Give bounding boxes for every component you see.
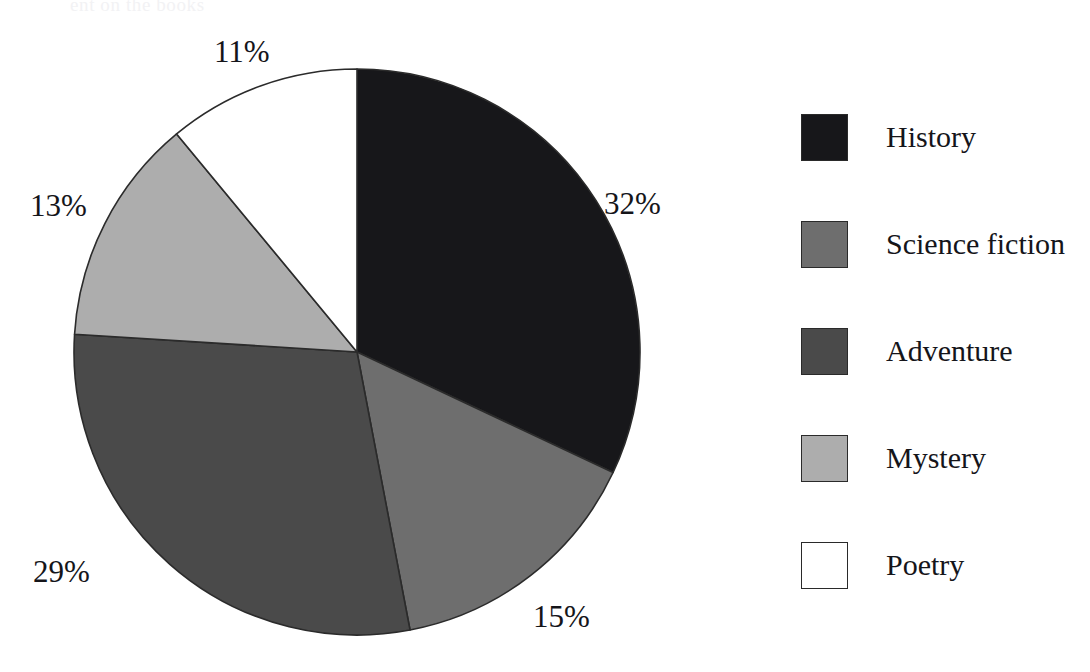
pie-slice-group xyxy=(74,69,640,635)
legend-swatch-mystery xyxy=(801,435,848,482)
pie-value-label-poetry: 11% xyxy=(214,36,270,67)
legend-item-adventure: Adventure xyxy=(801,327,1081,375)
pie-chart: 32% 15% 29% 13% 11% History Science fict… xyxy=(0,0,1090,672)
legend-swatch-adventure xyxy=(801,328,848,375)
legend-label-poetry: Poetry xyxy=(886,550,964,580)
legend-swatch-science-fiction xyxy=(801,221,848,268)
legend-label-adventure: Adventure xyxy=(886,336,1013,366)
legend-label-history: History xyxy=(886,122,976,152)
legend-label-mystery: Mystery xyxy=(886,443,986,473)
pie-value-label-history: 32% xyxy=(604,188,661,219)
pie-value-label-adventure: 29% xyxy=(33,556,90,587)
legend-label-science-fiction: Science fiction xyxy=(886,229,1065,259)
legend-item-mystery: Mystery xyxy=(801,434,1081,482)
pie-value-label-science-fiction: 15% xyxy=(533,601,590,632)
legend-item-science-fiction: Science fiction xyxy=(801,220,1081,268)
legend-item-poetry: Poetry xyxy=(801,541,1081,589)
legend-swatch-history xyxy=(801,114,848,161)
pie-value-label-mystery: 13% xyxy=(30,190,87,221)
chart-legend: History Science fiction Adventure Myster… xyxy=(801,113,1081,589)
legend-swatch-poetry xyxy=(801,542,848,589)
pie-slice-adventure xyxy=(74,334,410,635)
legend-item-history: History xyxy=(801,113,1081,161)
